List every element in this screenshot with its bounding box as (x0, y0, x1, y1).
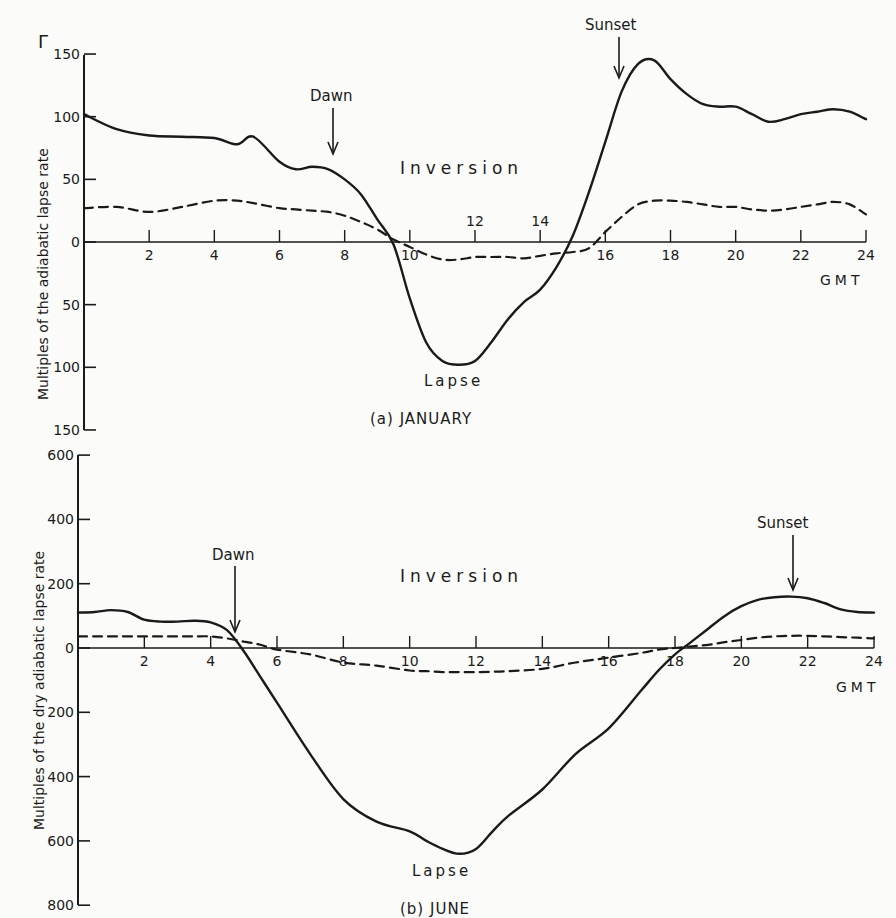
arrow-down-icon (614, 37, 624, 78)
svg-text:200: 200 (47, 576, 74, 592)
y-axis-label: Multiples of the dry adiabatic lapse rat… (31, 551, 47, 830)
y-axis-label: Multiples of the adiabatic lapse rate (35, 148, 51, 400)
svg-text:100: 100 (53, 359, 80, 375)
arrow-down-icon (788, 535, 798, 590)
svg-text:10: 10 (401, 247, 419, 263)
panel-june: 6004002000200400600800246810121416182022… (31, 447, 883, 918)
svg-text:10: 10 (401, 653, 419, 669)
svg-text:150: 150 (53, 422, 80, 438)
svg-text:8: 8 (339, 653, 348, 669)
panel-title: (a) JANUARY (370, 410, 472, 428)
annotation-dawn: Dawn (310, 87, 353, 105)
svg-text:20: 20 (732, 653, 750, 669)
region-label-inversion: Inversion (400, 158, 523, 178)
svg-text:6: 6 (275, 247, 284, 263)
svg-text:150: 150 (53, 46, 80, 62)
arrow-down-icon (230, 566, 240, 632)
svg-text:20: 20 (727, 247, 745, 263)
svg-text:2: 2 (145, 247, 154, 263)
annotation-sunset: Sunset (585, 16, 637, 34)
svg-text:16: 16 (600, 653, 618, 669)
region-label-inversion: Inversion (400, 566, 523, 586)
svg-text:600: 600 (47, 833, 74, 849)
svg-text:14: 14 (533, 653, 551, 669)
svg-text:16: 16 (596, 247, 614, 263)
svg-text:8: 8 (340, 247, 349, 263)
svg-text:22: 22 (792, 247, 810, 263)
svg-text:50: 50 (62, 297, 80, 313)
data-lines (78, 597, 874, 854)
svg-text:18: 18 (662, 247, 680, 263)
svg-text:22: 22 (799, 653, 817, 669)
x-axis-label: GMT (836, 679, 879, 695)
svg-text:14: 14 (531, 213, 549, 229)
svg-text:12: 12 (466, 213, 484, 229)
svg-text:400: 400 (47, 511, 74, 527)
svg-text:50: 50 (62, 171, 80, 187)
svg-text:800: 800 (47, 897, 74, 913)
svg-text:4: 4 (206, 653, 215, 669)
arrow-down-icon (328, 108, 338, 154)
svg-text:0: 0 (65, 640, 74, 656)
svg-text:12: 12 (467, 653, 485, 669)
svg-text:6: 6 (273, 653, 282, 669)
svg-text:2: 2 (140, 653, 149, 669)
panel-january: 1501005005010015024681012141618202224 Γ … (35, 16, 875, 438)
svg-text:24: 24 (857, 247, 875, 263)
x-axis-label: GMT (820, 272, 863, 288)
figure: 1501005005010015024681012141618202224 Γ … (0, 0, 896, 918)
solid-series-line (78, 597, 874, 854)
region-label-lapse: Lapse (424, 372, 483, 390)
data-lines (84, 59, 866, 365)
svg-text:100: 100 (53, 109, 80, 125)
svg-text:4: 4 (210, 247, 219, 263)
panel-title: (b) JUNE (400, 900, 470, 918)
solid-series-line (84, 59, 866, 365)
annotation-dawn: Dawn (212, 546, 255, 564)
svg-text:24: 24 (865, 653, 883, 669)
gamma-symbol: Γ (38, 31, 48, 52)
region-label-lapse: Lapse (412, 862, 471, 880)
svg-text:600: 600 (47, 447, 74, 463)
annotation-sunset: Sunset (757, 514, 809, 532)
svg-text:0: 0 (71, 234, 80, 250)
svg-text:200: 200 (47, 704, 74, 720)
svg-text:400: 400 (47, 769, 74, 785)
